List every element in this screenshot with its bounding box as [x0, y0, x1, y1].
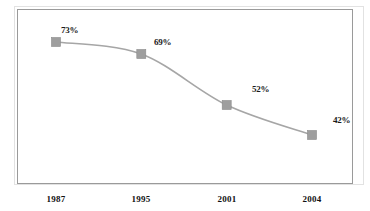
- x-tick-label-2001: 2001: [209, 194, 245, 204]
- clipped-title-remnant: [16, 0, 356, 3]
- x-tick-label-1995: 1995: [123, 194, 159, 204]
- data-label-1995: 69%: [154, 37, 171, 47]
- series-line: [56, 42, 312, 135]
- x-tick-label-1987: 1987: [38, 194, 74, 204]
- data-point-marker: [137, 50, 146, 59]
- data-point-marker: [52, 38, 61, 47]
- line-chart-figure: 73% 69% 52% 42% 1987 1995 2001 2004: [0, 0, 370, 211]
- data-label-2004: 42%: [333, 115, 350, 125]
- data-point-marker: [308, 131, 317, 140]
- plot-area: [17, 9, 353, 184]
- x-tick-label-2004: 2004: [294, 194, 330, 204]
- data-point-marker: [222, 101, 231, 110]
- data-label-2001: 52%: [252, 84, 269, 94]
- data-label-1987: 73%: [61, 25, 78, 35]
